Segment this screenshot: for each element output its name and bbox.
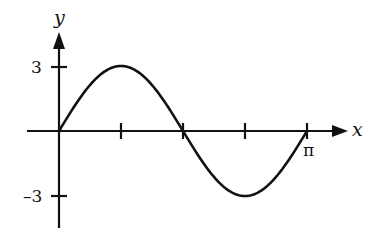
- x-axis-label: x: [352, 118, 363, 140]
- y-axis-arrow-icon: [53, 32, 65, 49]
- x-tick-label-pi: π: [303, 140, 314, 160]
- y-axis-label: y: [53, 6, 65, 28]
- sine-chart: y x 3 –3 π: [0, 0, 383, 240]
- y-tick-label-neg3: –3: [23, 186, 42, 206]
- x-axis-arrow-icon: [332, 125, 348, 137]
- y-tick-label-3: 3: [31, 57, 42, 77]
